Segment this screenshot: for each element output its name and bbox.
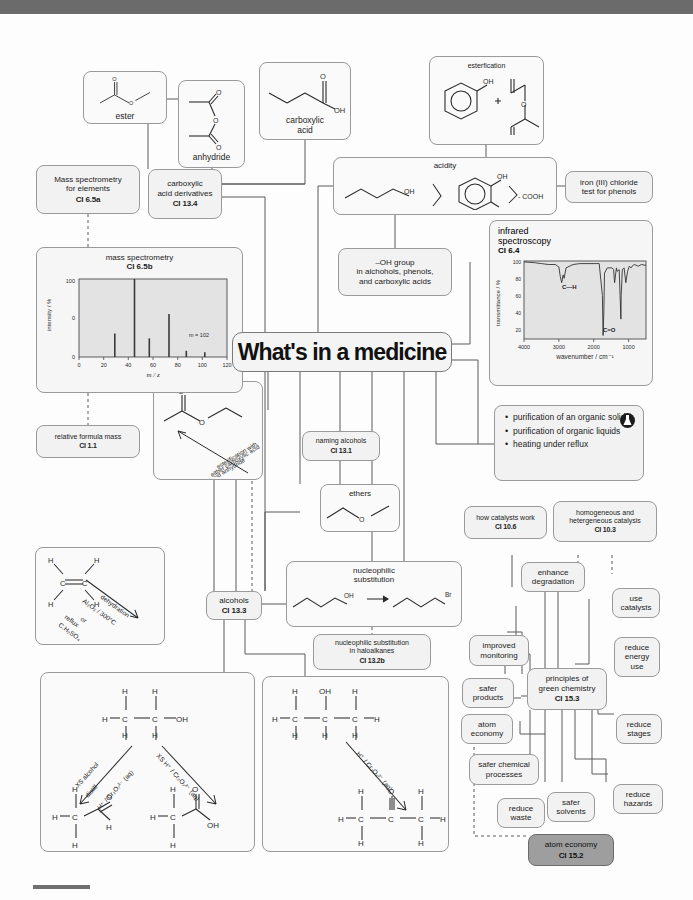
- propanol-oxidation-icon: HOHH HHH HCC CH HOH HH HCC CH H⁺ / Cr₂O₇…: [266, 680, 446, 848]
- svg-text:C: C: [352, 715, 358, 724]
- node-reduce-hazards[interactable]: reduce hazards: [613, 784, 663, 814]
- node-relative-formula-mass[interactable]: relative formula mass CI 1.1: [36, 425, 140, 458]
- node-reduce-stages[interactable]: reduce stages: [616, 714, 662, 744]
- primary-ox-left-reagent-3: H⁺ / Cr₂O₇²⁻ (aq): [95, 769, 135, 812]
- fecl3-line1: iron (III) chloride: [580, 178, 638, 187]
- alcohols-code: CI 13.3: [222, 606, 246, 615]
- node-safer-chemical-processes[interactable]: safer chemical processes: [469, 754, 539, 785]
- svg-text:O: O: [199, 418, 205, 427]
- ae-line2: economy: [471, 729, 503, 738]
- aer-label: atom economy: [545, 840, 597, 849]
- node-dehydration-reaction[interactable]: HH HH CC dehydration Al₂O₃ / 300°C or re…: [35, 547, 165, 645]
- rw-line1: reduce: [509, 804, 533, 813]
- ed-line1: enhance: [538, 568, 569, 577]
- svg-text:- COOH: - COOH: [518, 193, 543, 200]
- svg-text:0: 0: [72, 354, 75, 360]
- svg-text:80: 80: [175, 362, 181, 368]
- ns-line2: substitution: [354, 575, 394, 584]
- svg-text:OH: OH: [497, 173, 508, 180]
- svg-text:O: O: [359, 516, 365, 523]
- svg-text:H: H: [272, 715, 278, 724]
- node-primary-alcohol-oxidation[interactable]: HH HH HCC OH HH HC OH HH HC OOH XS alcoh…: [40, 672, 255, 852]
- node-enhance-degradation[interactable]: enhance degradation: [521, 562, 585, 592]
- ed-line2: degradation: [532, 577, 574, 586]
- svg-text:OH: OH: [334, 106, 345, 115]
- node-reduce-energy-use[interactable]: reduce energy use: [614, 637, 660, 677]
- node-iron-chloride-test[interactable]: iron (III) chloride test for phenols: [565, 171, 653, 203]
- node-carboxylic-acid-label-2: acid: [297, 125, 313, 135]
- node-naming-alcohols[interactable]: naming alcohols CI 13.1: [302, 431, 380, 461]
- node-safer-products[interactable]: safer products: [462, 678, 514, 708]
- node-homogeneous-heterogeneous-catalysis[interactable]: homogeneous and hetergeneous catalysis C…: [553, 501, 657, 542]
- svg-text:40: 40: [515, 310, 521, 316]
- hcw-label: how catalysts work: [476, 514, 535, 522]
- node-nucleophilic-substitution-haloalkanes[interactable]: nucleophilic substitution in haloalkanes…: [313, 634, 431, 670]
- node-atom-economy[interactable]: atom economy: [461, 714, 513, 744]
- scp-line2: processes: [486, 770, 522, 779]
- reu-line1: reduce: [625, 643, 649, 652]
- svg-text:C: C: [72, 813, 78, 822]
- node-ethers[interactable]: ethers O: [320, 484, 400, 532]
- node-esterification-phenol[interactable]: esterfication OH O: [429, 56, 544, 145]
- node-use-catalysts[interactable]: use catalysts: [612, 588, 660, 618]
- ethene-dehydration-icon: HH HH CC dehydration Al₂O₃ / 300°C or re…: [38, 550, 162, 642]
- pgc-code: CI 15.3: [555, 694, 579, 703]
- svg-text:3000: 3000: [553, 344, 565, 350]
- sp-line2: products: [473, 693, 504, 702]
- svg-text:H: H: [122, 731, 128, 740]
- node-carboxylic-acid-derivatives[interactable]: carboxylic acid derivatives CI 13.4: [148, 169, 222, 219]
- svg-text:H: H: [48, 600, 53, 609]
- purification-item-1: purification of an organic solid: [513, 412, 635, 423]
- svg-text:H: H: [338, 815, 344, 824]
- node-atom-economy-reference[interactable]: atom economy CI 15.2: [528, 834, 614, 866]
- im-line2: monitoring: [480, 651, 517, 660]
- node-alcohols[interactable]: alcohols CI 13.3: [206, 591, 262, 620]
- rh-line1: reduce: [626, 790, 650, 799]
- central-topic-label: What's in a medicine: [238, 339, 447, 366]
- node-ester[interactable]: O O ester: [83, 71, 167, 124]
- node-improved-monitoring[interactable]: improved monitoring: [469, 635, 529, 666]
- node-secondary-alcohol-oxidation[interactable]: HOHH HHH HCC CH HOH HH HCC CH H⁺ / Cr₂O₇…: [262, 676, 449, 852]
- svg-text:m = 102: m = 102: [189, 332, 209, 338]
- rfm-label: relative formula mass: [55, 433, 122, 441]
- node-carboxylic-acid[interactable]: O OH carboxylic acid: [259, 62, 351, 140]
- svg-text:OH: OH: [319, 687, 331, 696]
- chart-mass-spectrometry[interactable]: mass spectrometry CI 6.5b 100 0 0 intens…: [36, 247, 243, 393]
- reu-line3: use: [631, 662, 644, 671]
- svg-text:60: 60: [150, 362, 156, 368]
- svg-text:80: 80: [515, 276, 521, 282]
- node-esterification-reaction[interactable]: O O esterification with either carboxyli…: [153, 381, 263, 480]
- ss-line1: safer: [562, 798, 580, 807]
- svg-text:60: 60: [515, 293, 521, 299]
- node-principles-of-green-chemistry[interactable]: principles of green chemistry CI 15.3: [527, 668, 607, 710]
- node-anhydride[interactable]: O O O anhydride: [178, 80, 245, 168]
- svg-text:C: C: [322, 715, 328, 724]
- node-purification-list[interactable]: purification of an organic solid purific…: [494, 405, 644, 481]
- concept-map-canvas: O O ester O O O anhydride: [0, 14, 693, 900]
- node-anhydride-label: anhydride: [193, 152, 230, 162]
- chart-infrared-spectroscopy[interactable]: infrared spectroscopy CI 6.4 100 80 60 4…: [489, 220, 653, 386]
- node-reduce-waste[interactable]: reduce waste: [497, 798, 545, 828]
- uc-line1: use: [630, 594, 643, 603]
- svg-text:OH: OH: [483, 78, 494, 85]
- page-footer-mark: [33, 885, 90, 889]
- node-acidity[interactable]: acidity OH OH - COOH: [333, 157, 557, 215]
- svg-text:C: C: [60, 579, 66, 588]
- central-topic-node[interactable]: What's in a medicine: [232, 332, 452, 372]
- dehydration-reagent-3: or: [79, 615, 88, 625]
- svg-text:intensity / %: intensity / %: [46, 298, 52, 331]
- node-safer-solvents[interactable]: safer solvents: [547, 792, 595, 822]
- node-nucleophilic-substitution[interactable]: nucleophilic substitution OH Br: [286, 561, 462, 627]
- node-oh-group[interactable]: –OH group in alchohols, phenols, and car…: [338, 248, 452, 296]
- hhc-line1: homogeneous and: [576, 509, 634, 517]
- svg-text:H: H: [292, 687, 298, 696]
- ms-elements-line1: Mass spectrometry: [54, 175, 122, 184]
- rh-line2: hazards: [624, 799, 652, 808]
- ethanol-oxidation-icon: HH HH HCC OH HH HC OH HH HC OOH XS alcoh…: [44, 676, 252, 848]
- node-how-catalysts-work[interactable]: how catalysts work CI 10.6: [464, 506, 547, 539]
- svg-text:4000: 4000: [518, 344, 530, 350]
- nsh-code: CI 13.2b: [359, 657, 384, 665]
- node-mass-spectrometry-for-elements[interactable]: Mass spectrometry for elements CI 6.5a: [36, 165, 140, 214]
- ir-chart-plot: 100 80 60 40 20 transmittance / % C—H C=…: [490, 255, 652, 363]
- svg-text:O: O: [521, 101, 527, 108]
